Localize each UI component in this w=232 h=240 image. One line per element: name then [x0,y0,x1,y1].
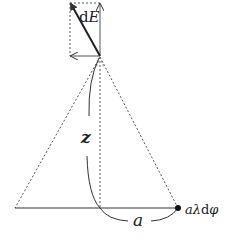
charge-element-label: aλdφ [185,202,219,217]
cone-right-edge [100,57,178,208]
apex-tick-2 [100,57,104,68]
a-label: a [133,210,143,230]
ring-field-diagram: dE z a aλdφ [0,0,232,240]
a-brace-left [100,208,128,221]
dE-label: dE [79,8,100,26]
a-brace-right [151,208,178,221]
z-brace-upper [89,58,99,116]
z-brace-lower [87,156,100,208]
z-label: z [80,127,91,147]
charge-element-point [175,205,181,211]
